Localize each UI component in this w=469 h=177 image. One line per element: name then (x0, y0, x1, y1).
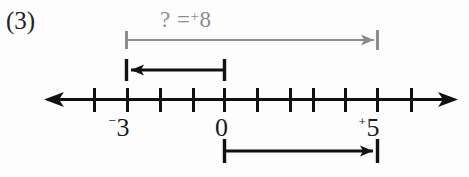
axis-label-neg3-number: 3 (116, 113, 129, 142)
axis-label-neg3: ⁻3 (108, 115, 129, 141)
axis-label-pos5-number: 5 (366, 113, 379, 142)
axis-label-zero: 0 (215, 115, 228, 141)
number-line-diagram (0, 0, 469, 177)
axis-label-zero-number: 0 (215, 113, 228, 142)
axis-label-pos5: ⁺5 (358, 115, 379, 141)
positive-jump-arrow-group (225, 139, 378, 163)
number-line-axis-group (44, 88, 458, 112)
unknown-span-arrow-group (127, 30, 378, 50)
negative-jump-arrow-group (127, 59, 225, 81)
worksheet-figure: (3) ? =+8 (0, 0, 469, 177)
